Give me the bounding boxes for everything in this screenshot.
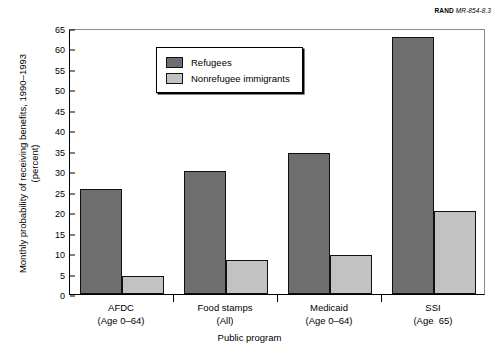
legend-label-refugees: Refugees [191, 57, 232, 68]
y-axis-tick-mark [70, 296, 75, 297]
legend-item-nonrefugee-immigrants: Nonrefugee immigrants [166, 70, 290, 86]
y-axis-title: Monthly probability of receiving benefit… [17, 21, 40, 306]
source-credit-brand: RAND [435, 7, 454, 14]
y-axis-tick-label: 10 [55, 250, 70, 260]
y-axis-tick-label: 35 [55, 148, 70, 158]
legend-swatch-refugees [166, 57, 183, 68]
chart-legend: Refugees Nonrefugee immigrants [156, 47, 303, 93]
x-axis-group-separator [173, 295, 174, 302]
x-axis-category-label: Medicaid (Age 0–64) [277, 302, 381, 327]
bar [184, 171, 226, 294]
y-axis-tick-label: 45 [55, 107, 70, 117]
y-axis-tick-label: 0 [60, 291, 70, 301]
figure: RAND MR-854-8.3 Monthly probability of r… [0, 0, 499, 355]
bar [226, 260, 268, 294]
bar [80, 189, 122, 294]
x-axis-category-label: Food stamps (All) [173, 302, 277, 327]
y-axis-tick-label: 50 [55, 86, 70, 96]
y-axis-tick-label: 5 [60, 271, 70, 281]
x-axis-category-label: SSI (Age 65) [381, 302, 485, 327]
y-axis-tick-label: 30 [55, 168, 70, 178]
y-axis-tick-label: 65 [55, 25, 70, 35]
bar [330, 255, 372, 294]
legend-item-refugees: Refugees [166, 54, 290, 70]
source-credit-id: MR-854-8.3 [456, 7, 491, 14]
x-axis-group-separator [277, 295, 278, 302]
y-axis-tick-label: 55 [55, 66, 70, 76]
bar [122, 276, 164, 294]
x-axis-title: Public program [0, 332, 499, 343]
x-axis-category-label: AFDC (Age 0–64) [69, 302, 173, 327]
bar [288, 153, 330, 294]
y-axis-tick-label: 40 [55, 127, 70, 137]
y-axis-tick-label: 15 [55, 230, 70, 240]
legend-label-nonrefugee-immigrants: Nonrefugee immigrants [191, 73, 290, 84]
bar [434, 211, 476, 294]
bar [392, 37, 434, 294]
source-credit: RAND MR-854-8.3 [435, 7, 491, 14]
x-axis-group-separator [381, 295, 382, 302]
legend-swatch-nonrefugee-immigrants [166, 73, 183, 84]
y-axis-tick-label: 20 [55, 209, 70, 219]
y-axis-tick-label: 60 [55, 45, 70, 55]
y-axis-tick-label: 25 [55, 189, 70, 199]
